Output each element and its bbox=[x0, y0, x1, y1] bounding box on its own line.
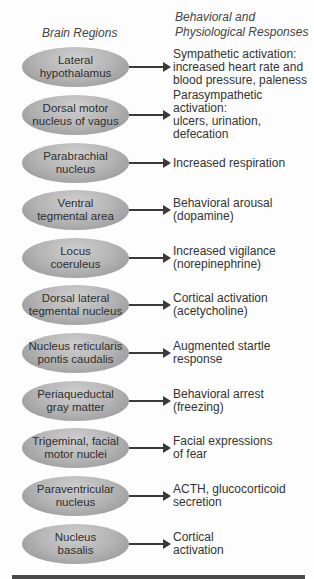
response: Augmented startle response bbox=[173, 331, 270, 375]
region-label: Nucleus basalis bbox=[55, 531, 97, 557]
arrow-icon bbox=[129, 304, 169, 306]
row-nucleus-reticularis: Nucleus reticularis pontis caudalis Augm… bbox=[0, 331, 314, 375]
arrow-icon bbox=[129, 209, 169, 211]
response-label: Cortical activation bbox=[173, 531, 224, 557]
response-label: Sympathetic activation: increased heart … bbox=[173, 48, 307, 87]
response: Increased vigilance (norepinephrine) bbox=[173, 236, 276, 280]
arrow-icon bbox=[129, 495, 169, 497]
row-nucleus-basalis: Nucleus basalis Cortical activation bbox=[0, 522, 314, 566]
response-label: Behavioral arrest (freezing) bbox=[173, 388, 264, 414]
response: Facial expressions of fear bbox=[173, 426, 272, 470]
response-label: Behavioral arousal (dopamine) bbox=[173, 197, 272, 223]
arrow-icon bbox=[129, 352, 169, 354]
row-paraventricular-nucleus: Paraventricular nucleus ACTH, glucocorti… bbox=[0, 474, 314, 518]
region-label: Paraventricular nucleus bbox=[37, 483, 114, 509]
response-label: Parasympathetic activation: ulcers, urin… bbox=[173, 89, 314, 141]
row-ventral-tegmental-area: Ventral tegmental area Behavioral arousa… bbox=[0, 188, 314, 232]
region-label: Nucleus reticularis pontis caudalis bbox=[29, 340, 123, 366]
arrow-icon bbox=[129, 257, 169, 259]
region-ellipse: Ventral tegmental area bbox=[22, 190, 129, 230]
region-ellipse: Nucleus reticularis pontis caudalis bbox=[22, 333, 129, 373]
region-ellipse: Periaqueductal gray matter bbox=[22, 381, 129, 421]
region-label: Lateral hypothalamus bbox=[40, 54, 112, 80]
response: Cortical activation bbox=[173, 522, 224, 566]
bottom-divider bbox=[12, 575, 305, 579]
response: Parasympathetic activation: ulcers, urin… bbox=[173, 93, 314, 137]
responses-header: Behavioral and Physiological Responses bbox=[175, 10, 308, 40]
response: ACTH, glucocorticoid secretion bbox=[173, 474, 286, 518]
region-label: Dorsal motor nucleus of vagus bbox=[32, 102, 118, 128]
region-ellipse: Lateral hypothalamus bbox=[22, 47, 129, 87]
region-ellipse: Trigeminal, facial motor nuclei bbox=[22, 428, 129, 468]
region-ellipse: Dorsal motor nucleus of vagus bbox=[22, 95, 129, 135]
arrow-icon bbox=[129, 447, 169, 449]
arrow-icon bbox=[129, 543, 169, 545]
region-label: Dorsal lateral tegmental nucleus bbox=[29, 292, 122, 318]
region-label: Ventral tegmental area bbox=[37, 197, 114, 223]
region-ellipse: Locus coeruleus bbox=[22, 238, 129, 278]
region-label: Locus coeruleus bbox=[51, 245, 101, 271]
region-ellipse: Nucleus basalis bbox=[22, 524, 129, 564]
row-periaqueductal-gray: Periaqueductal gray matter Behavioral ar… bbox=[0, 379, 314, 423]
response-label: ACTH, glucocorticoid secretion bbox=[173, 483, 286, 509]
region-ellipse: Dorsal lateral tegmental nucleus bbox=[22, 285, 129, 325]
region-label: Periaqueductal gray matter bbox=[37, 388, 114, 414]
row-parabrachial-nucleus: Parabrachial nucleus Increased respirati… bbox=[0, 141, 314, 185]
response: Behavioral arrest (freezing) bbox=[173, 379, 264, 423]
response-label: Increased vigilance (norepinephrine) bbox=[173, 245, 276, 271]
response-label: Facial expressions of fear bbox=[173, 435, 272, 461]
arrow-icon bbox=[129, 66, 169, 68]
row-dorsal-motor-nucleus: Dorsal motor nucleus of vagus Parasympat… bbox=[0, 93, 314, 137]
response-label: Cortical activation (acetycholine) bbox=[173, 292, 268, 318]
response: Cortical activation (acetycholine) bbox=[173, 283, 268, 327]
region-label: Trigeminal, facial motor nuclei bbox=[32, 435, 119, 461]
arrow-icon bbox=[129, 162, 169, 164]
response: Sympathetic activation: increased heart … bbox=[173, 45, 307, 89]
response: Increased respiration bbox=[173, 141, 285, 185]
response: Behavioral arousal (dopamine) bbox=[173, 188, 272, 232]
row-locus-coeruleus: Locus coeruleus Increased vigilance (nor… bbox=[0, 236, 314, 280]
row-trigeminal-facial: Trigeminal, facial motor nuclei Facial e… bbox=[0, 426, 314, 470]
arrow-icon bbox=[129, 400, 169, 402]
response-label: Augmented startle response bbox=[173, 340, 270, 366]
arrow-icon bbox=[129, 114, 169, 116]
brain-regions-header: Brain Regions bbox=[42, 26, 117, 41]
response-label: Increased respiration bbox=[173, 157, 285, 170]
region-ellipse: Paraventricular nucleus bbox=[22, 476, 129, 516]
region-label: Parabrachial nucleus bbox=[43, 150, 108, 176]
row-lateral-hypothalamus: Lateral hypothalamus Sympathetic activat… bbox=[0, 45, 314, 89]
region-ellipse: Parabrachial nucleus bbox=[22, 143, 129, 183]
row-dorsal-lateral-tegmental-nucleus: Dorsal lateral tegmental nucleus Cortica… bbox=[0, 283, 314, 327]
